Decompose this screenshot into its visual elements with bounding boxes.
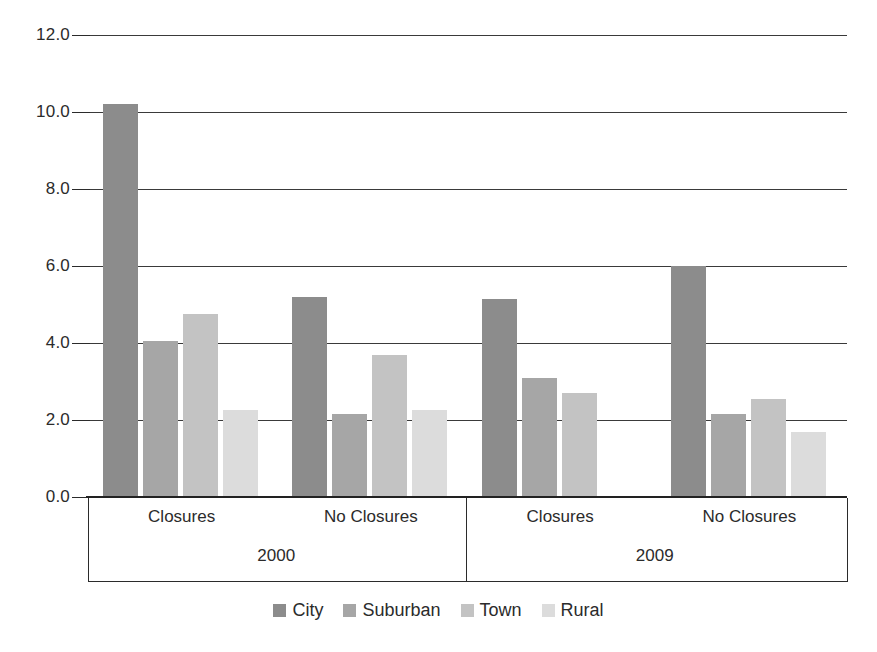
bar-town-group-1: [183, 314, 218, 497]
y-axis: 12.010.08.06.04.02.00.0: [10, 0, 70, 652]
bar-suburban-group-2: [332, 414, 367, 497]
bar-city-group-1: [103, 104, 138, 497]
legend-label: City: [292, 600, 323, 620]
legend-swatch-icon: [461, 604, 474, 617]
legend-item-suburban[interactable]: Suburban: [343, 600, 440, 620]
legend-swatch-icon: [273, 604, 286, 617]
y-axis-tick-label: 10.0: [14, 103, 70, 120]
legend-swatch-icon: [343, 604, 356, 617]
legend-item-city[interactable]: City: [273, 600, 323, 620]
y-axis-tick-label: 6.0: [14, 257, 70, 274]
y-axis-tick-label: 2.0: [14, 411, 70, 428]
x-axis-group-label: 2000: [87, 546, 466, 566]
y-axis-tick-mark: [72, 189, 90, 190]
bar-rural-group-1: [223, 410, 258, 497]
x-axis-category-label: Closures: [466, 507, 655, 527]
legend-label: Suburban: [362, 600, 440, 620]
bar-town-group-4: [751, 399, 786, 497]
y-axis-tick-label: 12.0: [14, 26, 70, 43]
bar-town-group-3: [562, 393, 597, 497]
bar-rural-group-4: [791, 432, 826, 497]
legend-label: Town: [480, 600, 522, 620]
y-axis-tick-mark: [72, 35, 90, 36]
bar-suburban-group-4: [711, 414, 746, 497]
x-axis-group-label: 2009: [466, 546, 845, 566]
y-axis-tick-mark: [72, 420, 90, 421]
bar-chart: 12.010.08.06.04.02.00.0 20002009Closures…: [0, 0, 877, 652]
y-axis-tick-label: 0.0: [14, 488, 70, 505]
bar-city-group-2: [292, 297, 327, 497]
bar-rural-group-2: [412, 410, 447, 497]
bars-layer: [90, 20, 847, 497]
y-axis-tick-mark: [72, 112, 90, 113]
y-axis-tick-label: 8.0: [14, 180, 70, 197]
y-axis-tick-mark: [72, 266, 90, 267]
bar-city-group-4: [671, 266, 706, 497]
x-axis-category-label: No Closures: [276, 507, 465, 527]
bar-town-group-2: [372, 355, 407, 497]
y-axis-tick-label: 4.0: [14, 334, 70, 351]
legend-item-rural[interactable]: Rural: [542, 600, 604, 620]
legend-swatch-icon: [542, 604, 555, 617]
y-axis-tick-mark: [72, 343, 90, 344]
legend-item-town[interactable]: Town: [461, 600, 522, 620]
bar-suburban-group-1: [143, 341, 178, 497]
bar-suburban-group-3: [522, 378, 557, 497]
chart-legend: CitySuburbanTownRural: [0, 600, 877, 620]
x-axis-category-label: No Closures: [655, 507, 844, 527]
category-axis: 20002009ClosuresNo ClosuresClosuresNo Cl…: [88, 498, 848, 582]
bar-city-group-3: [482, 299, 517, 497]
legend-label: Rural: [561, 600, 604, 620]
x-axis-category-label: Closures: [87, 507, 276, 527]
